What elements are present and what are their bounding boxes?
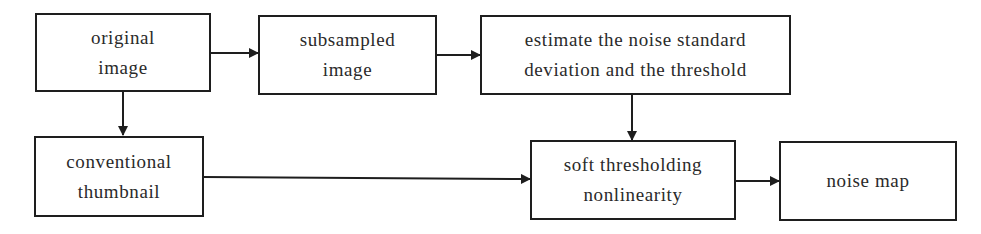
node-label-line: soft thresholding — [564, 150, 702, 180]
node-noise-map: noise map — [779, 141, 957, 221]
node-label-line: deviation and the threshold — [524, 55, 747, 85]
node-label-line: estimate the noise standard — [524, 25, 747, 55]
node-label-line: image — [300, 55, 396, 85]
node-label-line: thumbnail — [66, 177, 171, 207]
arrow-thumbnail-to-soft — [203, 177, 530, 179]
node-label-line: nonlinearity — [564, 180, 702, 210]
node-label-line: subsampled — [300, 25, 396, 55]
node-estimate-noise: estimate the noise standarddeviation and… — [480, 15, 791, 95]
node-soft-thresholding: soft thresholdingnonlinearity — [530, 140, 736, 220]
node-original-image: originalimage — [35, 13, 211, 92]
node-label-line: conventional — [66, 147, 171, 177]
node-label-line: noise map — [827, 166, 910, 196]
node-label-line: original — [91, 23, 155, 53]
node-subsampled-image: subsampledimage — [258, 15, 437, 95]
node-conventional-thumbnail: conventionalthumbnail — [34, 136, 204, 217]
node-label-line: image — [91, 53, 155, 83]
